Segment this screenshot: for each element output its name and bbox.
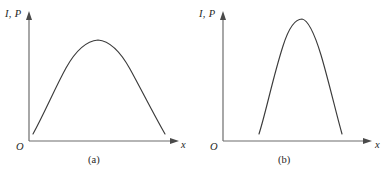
y-axis-arrowhead-a xyxy=(26,11,32,20)
x-axis-arrowhead-a xyxy=(170,138,179,144)
y-axis-label-b: I, P xyxy=(199,9,215,20)
panel-caption-b: (b) xyxy=(278,155,290,166)
figure-container: I, P x O (a) I, P x O (b) xyxy=(0,0,389,173)
chart-plot-a xyxy=(0,0,194,173)
x-axis-label-b: x xyxy=(375,140,380,151)
chart-panel-a: I, P x O (a) xyxy=(0,0,194,173)
origin-label-a: O xyxy=(16,142,24,153)
origin-label-b: O xyxy=(210,142,218,153)
y-axis-arrowhead-b xyxy=(220,11,226,20)
chart-plot-b xyxy=(195,0,389,173)
chart-panel-b: I, P x O (b) xyxy=(195,0,389,173)
panel-caption-a: (a) xyxy=(88,155,100,166)
distribution-curve-a xyxy=(33,40,165,134)
distribution-curve-b xyxy=(259,19,342,134)
x-axis-label-a: x xyxy=(181,140,186,151)
x-axis-arrowhead-b xyxy=(363,138,372,144)
y-axis-label-a: I, P xyxy=(5,9,21,20)
